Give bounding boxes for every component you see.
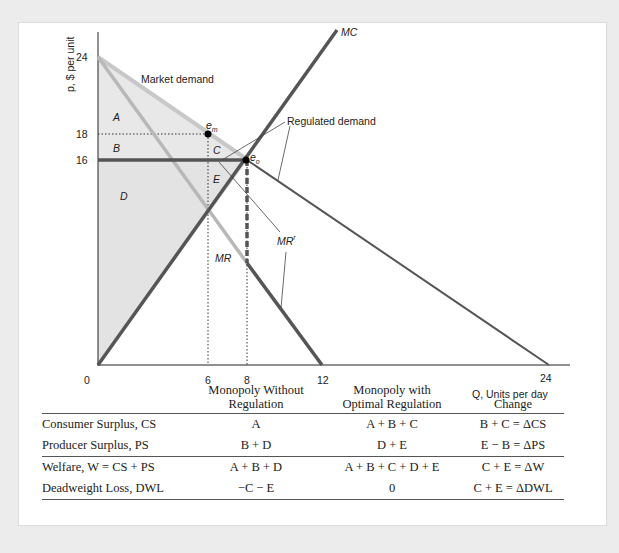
leader-regulated-2 bbox=[278, 126, 290, 180]
cell-without: A + B + D bbox=[190, 457, 322, 479]
regulated-demand-slope bbox=[247, 160, 549, 365]
area-b-label: B bbox=[113, 142, 120, 154]
header-change: Change bbox=[462, 383, 564, 414]
mr-label: MR bbox=[215, 252, 232, 264]
table-row: Deadweight Loss, DWL −C − E 0 C + E = ΔD… bbox=[42, 478, 564, 500]
table-header: Monopoly WithoutRegulation Monopoly with… bbox=[42, 383, 564, 414]
y-axis-label: p, $ per unit bbox=[64, 36, 76, 92]
regulated-demand-label: Regulated demand bbox=[287, 115, 376, 127]
mrr-label: MRr bbox=[277, 234, 296, 247]
cell-with: 0 bbox=[322, 478, 462, 500]
leader-mrr-2 bbox=[281, 252, 286, 308]
y-tick-16: 16 bbox=[76, 154, 88, 166]
cell-change: B + C = ΔCS bbox=[462, 414, 564, 436]
row-label: Producer Surplus, PS bbox=[42, 435, 190, 457]
market-demand-label: Market demand bbox=[141, 73, 214, 85]
area-a-label: A bbox=[112, 111, 120, 123]
cell-with: A + B + C bbox=[322, 414, 462, 436]
cell-change: E − B = ΔPS bbox=[462, 435, 564, 457]
table-row: Welfare, W = CS + PS A + B + D A + B + C… bbox=[42, 457, 564, 479]
row-label: Consumer Surplus, CS bbox=[42, 414, 190, 436]
y-tick-18: 18 bbox=[76, 128, 88, 140]
cell-change: C + E = ΔW bbox=[462, 457, 564, 479]
cell-without: −C − E bbox=[190, 478, 322, 500]
point-eo bbox=[243, 157, 250, 164]
mc-label: MC bbox=[341, 26, 358, 38]
table-row: Producer Surplus, PS B + D D + E E − B =… bbox=[42, 435, 564, 457]
header-without: Monopoly WithoutRegulation bbox=[190, 383, 322, 414]
eo-label: eo bbox=[250, 151, 260, 165]
cell-with: D + E bbox=[322, 435, 462, 457]
header-with: Monopoly withOptimal Regulation bbox=[322, 383, 462, 414]
leader-mrr-1 bbox=[219, 162, 280, 232]
table-row: Consumer Surplus, CS A A + B + C B + C =… bbox=[42, 414, 564, 436]
row-label: Welfare, W = CS + PS bbox=[42, 457, 190, 479]
welfare-table: Monopoly WithoutRegulation Monopoly with… bbox=[42, 383, 564, 500]
area-d-label: D bbox=[120, 190, 128, 202]
area-e-label: E bbox=[213, 173, 221, 185]
mrr-lower bbox=[247, 263, 322, 365]
cell-with: A + B + C + D + E bbox=[322, 457, 462, 479]
row-label: Deadweight Loss, DWL bbox=[42, 478, 190, 500]
cell-without: B + D bbox=[190, 435, 322, 457]
y-tick-24: 24 bbox=[76, 51, 88, 63]
area-c-label: C bbox=[213, 144, 221, 156]
em-label: em bbox=[206, 119, 218, 133]
cell-without: A bbox=[190, 414, 322, 436]
point-em bbox=[205, 131, 212, 138]
cell-change: C + E = ΔDWL bbox=[462, 478, 564, 500]
